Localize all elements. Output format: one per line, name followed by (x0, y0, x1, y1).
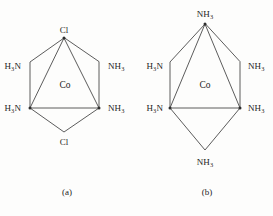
structure-b-bond-top-to-lower-right (205, 24, 240, 108)
structure-a-caption: (a) (62, 188, 72, 197)
structure-b-vertex-dot-lower-left (169, 107, 172, 110)
structure-a-ligand-chloro-bottom: Cl (60, 138, 69, 147)
structure-b-metal-center-label: Co (199, 81, 210, 91)
structure-b-ligand-ammine-lower-left: H3N (146, 104, 163, 113)
structure-a-vertex-dot-top (63, 37, 66, 40)
structure-a-ligand-ammine-lower-right: NH3 (108, 104, 125, 113)
structure-a-vertex-dot-lower-left (29, 107, 32, 110)
bond-framework-svg (0, 0, 273, 216)
structure-b-ligand-ammine-lower-right: NH3 (248, 104, 265, 113)
structure-b-ligand-ammine-upper-right: NH3 (248, 62, 265, 71)
structure-b-caption: (b) (202, 188, 213, 197)
structure-a-vertex-dot-lower-right (98, 107, 101, 110)
structure-a-metal-center-label: Co (59, 81, 70, 91)
structure-b-vertex-dot-top (204, 23, 207, 26)
structure-a-ligand-ammine-upper-right: NH3 (108, 62, 125, 71)
structure-b-ligand-ammine-top: NH3 (197, 10, 214, 19)
structure-a-ligand-ammine-upper-left: H3N (4, 62, 21, 71)
structure-b-ligand-ammine-bottom: NH3 (197, 158, 214, 167)
structure-b-ligand-ammine-upper-left: H3N (146, 62, 163, 71)
chemical-structures-figure: Cl H3N NH3 H3N NH3 Cl Co (a) NH3 H3N NH3… (0, 0, 273, 216)
structure-a-ligand-chloro-top: Cl (60, 26, 69, 35)
structure-a-bond-top-to-lower-left (30, 38, 64, 108)
structure-b-bond-top-to-lower-left (170, 24, 205, 108)
structure-b-vertex-dot-lower-right (239, 107, 242, 110)
structure-a-bond-top-to-lower-right (64, 38, 99, 108)
structure-a-ligand-ammine-lower-left: H3N (4, 104, 21, 113)
